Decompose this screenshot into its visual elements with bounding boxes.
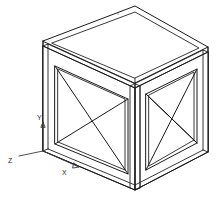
x-axis-label: X xyxy=(62,169,67,176)
y-axis-label: Y xyxy=(37,114,42,121)
isometric-box-drawing: Y X Z xyxy=(0,0,220,201)
z-axis-label: Z xyxy=(8,157,13,164)
drawing-background xyxy=(0,0,220,201)
cad-drawing-root: Y X Z xyxy=(0,0,220,201)
